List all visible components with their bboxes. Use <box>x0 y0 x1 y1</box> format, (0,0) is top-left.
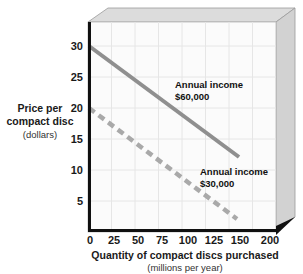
x-tick-75: 75 <box>156 234 168 246</box>
y-axis-title-line2: compact disc <box>6 115 73 127</box>
x-tick-25: 25 <box>108 234 120 246</box>
y-tick-20: 20 <box>71 102 83 114</box>
y-tick-15: 15 <box>71 133 83 145</box>
annotation-60k-line1: Annual income <box>175 79 243 90</box>
frame-right-face <box>276 8 295 232</box>
y-axis-title: Price per compact disc (dollars) <box>6 102 73 140</box>
x-tick-labels: 0 25 50 75 100 125 150 200 <box>87 234 279 246</box>
y-tick-10: 10 <box>71 164 83 176</box>
x-tick-0: 0 <box>87 234 93 246</box>
x-tick-50: 50 <box>132 234 144 246</box>
y-tick-5: 5 <box>77 195 83 207</box>
y-tick-25: 25 <box>71 71 83 83</box>
x-axis-title: Quantity of compact discs purchased (mil… <box>91 249 278 273</box>
cd-demand-chart: 30 25 20 15 10 5 0 25 50 75 100 125 150 … <box>0 0 303 274</box>
x-axis-title-sub: (millions per year) <box>147 262 223 273</box>
annotation-30k-line1: Annual income <box>200 166 268 177</box>
y-tick-30: 30 <box>71 40 83 52</box>
x-axis-title-main: Quantity of compact discs purchased <box>91 249 278 261</box>
chart-container: 30 25 20 15 10 5 0 25 50 75 100 125 150 … <box>0 0 303 274</box>
x-tick-125: 125 <box>205 234 223 246</box>
y-axis-title-line3: (dollars) <box>23 129 57 140</box>
annotation-30k-line2: $30,000 <box>200 178 234 189</box>
frame-top-face <box>88 8 295 22</box>
x-tick-100: 100 <box>179 234 197 246</box>
x-tick-150: 150 <box>231 234 249 246</box>
annotation-60k-line2: $60,000 <box>175 91 209 102</box>
y-axis-title-line1: Price per <box>18 102 63 114</box>
x-tick-200: 200 <box>261 234 279 246</box>
